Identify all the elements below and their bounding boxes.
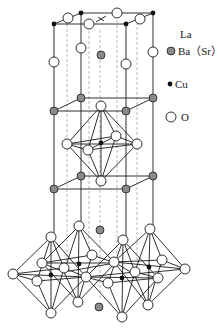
legend-label-ba-sr: Ba（Sr） (178, 46, 218, 57)
la-ba-legend-icon (167, 47, 175, 55)
crystal-structure-diagram: La Ba（Sr） Cu O (0, 0, 218, 336)
legend-label-cu: Cu (175, 79, 188, 90)
legend-label-la: La (180, 29, 192, 40)
cell-edges (54, 13, 153, 240)
legend-label-o: O (181, 112, 189, 123)
cu-legend-icon (168, 82, 173, 87)
oxygen-legend-icon (166, 112, 176, 122)
